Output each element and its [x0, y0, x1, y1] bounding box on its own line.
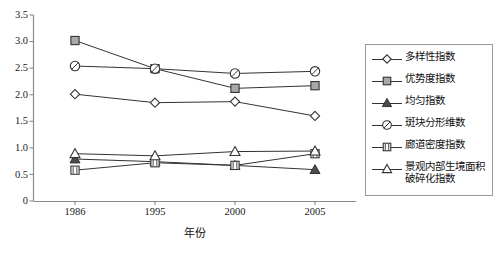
series-1: [75, 41, 315, 89]
series-3: [75, 66, 315, 73]
legend-label-line-1: 景观内部生境面积: [405, 161, 485, 173]
legend-item-4[interactable]: 廊道密度指数: [366, 139, 492, 161]
legend-label-line-2: 破碎化指数: [405, 173, 485, 185]
marker-slashed-circle: [383, 121, 392, 130]
legend-item-3[interactable]: 斑块分形维数: [366, 117, 492, 139]
legend-label-1: 优势度指数: [402, 73, 455, 85]
legend-marker-filled-square-icon: [372, 74, 402, 88]
marker-filled-square: [231, 84, 239, 92]
series-markers-0: [70, 90, 319, 121]
legend-marker-filled-triangle-icon: [372, 96, 402, 110]
marker-open-diamond: [310, 111, 319, 120]
legend: 多样性指数优势度指数均匀指数斑块分形维数廊道密度指数景观内部生境面积破碎化指数: [365, 44, 493, 196]
series-5: [75, 151, 315, 156]
marker-filled-square: [71, 36, 79, 44]
marker-open-triangle: [382, 164, 391, 172]
marker-open-triangle: [230, 147, 240, 156]
marker-open-diamond: [230, 97, 239, 106]
marker-open-triangle: [70, 149, 80, 158]
legend-marker-slashed-circle-icon: [372, 118, 402, 132]
legend-marker-open-diamond-icon: [372, 52, 402, 66]
legend-label-5: 景观内部生境面积破碎化指数: [402, 161, 485, 184]
marker-hatched-square: [383, 143, 391, 151]
marker-slashed-circle: [150, 64, 159, 73]
marker-open-diamond: [150, 98, 159, 107]
legend-marker-hatched-square-icon: [372, 140, 402, 154]
marker-hatched-square: [71, 166, 79, 174]
series-markers-5: [70, 146, 320, 160]
data-series-layer: [70, 36, 320, 174]
x-tick-label-2000: 2000: [213, 206, 257, 217]
marker-filled-triangle: [382, 98, 391, 106]
marker-open-diamond: [70, 90, 79, 99]
legend-label-0: 多样性指数: [402, 51, 455, 63]
x-tick-label-1995: 1995: [133, 206, 177, 217]
marker-filled-square: [311, 82, 319, 90]
marker-slashed-circle: [230, 69, 239, 78]
legend-marker-open-triangle-icon: [372, 162, 402, 176]
x-tick-label-1986: 1986: [53, 206, 97, 217]
legend-item-5[interactable]: 景观内部生境面积破碎化指数: [366, 161, 492, 195]
legend-label-4: 廊道密度指数: [402, 139, 465, 151]
legend-item-1[interactable]: 优势度指数: [366, 73, 492, 95]
legend-label-2: 均匀指数: [402, 95, 445, 107]
marker-open-diamond: [383, 55, 391, 63]
legend-item-0[interactable]: 多样性指数: [366, 51, 492, 73]
legend-label-3: 斑块分形维数: [402, 117, 465, 129]
series-0: [75, 94, 315, 116]
series-markers-1: [71, 36, 319, 92]
x-axis-title: 年份: [135, 228, 255, 240]
marker-hatched-square: [231, 161, 239, 169]
marker-slashed-circle: [70, 61, 79, 70]
marker-slashed-circle: [310, 67, 319, 76]
legend-item-2[interactable]: 均匀指数: [366, 95, 492, 117]
chart-container: 3.5 3.0 2.5 2.0 1.5 1.0 0.5 0 1986 1995 …: [0, 0, 498, 253]
x-tick-label-2005: 2005: [293, 206, 337, 217]
marker-filled-square: [383, 77, 391, 85]
series-markers-3: [70, 61, 319, 78]
